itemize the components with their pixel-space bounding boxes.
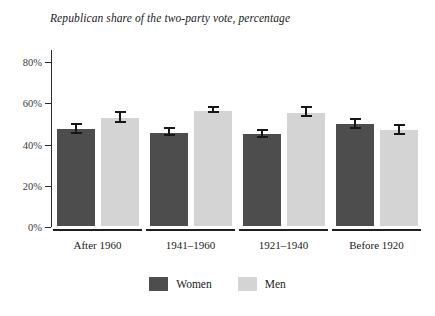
x-axis-category-label: 1921–1940 (237, 239, 330, 251)
y-axis-label: 60% (0, 98, 42, 109)
error-bar-cap-top (350, 118, 361, 120)
bar-group (51, 52, 144, 227)
bar-chart: Republican share of the two-party vote, … (0, 0, 435, 316)
error-bar-cap-bottom (115, 121, 126, 123)
y-axis-label: 40% (0, 139, 42, 150)
x-axis-group-rule (239, 229, 328, 231)
plot-area: After 19601941–19601921–1940Before 1920 (51, 52, 423, 227)
x-axis-category-label: After 1960 (51, 239, 144, 251)
x-axis-category-label: 1941–1960 (144, 239, 237, 251)
x-axis-group-foot: 1941–1960 (144, 229, 237, 251)
y-axis-label: 80% (0, 57, 42, 68)
error-bar-cap-top (257, 129, 268, 131)
bar-men-1 (193, 110, 233, 227)
error-bar-cap-top (71, 123, 82, 125)
legend-item-men[interactable]: Men (238, 277, 286, 291)
bar-group-bars (144, 52, 237, 227)
bar-group-bars (330, 52, 423, 227)
bar-men-3 (379, 129, 419, 227)
error-bar-cap-top (394, 124, 405, 126)
chart-title: Republican share of the two-party vote, … (50, 12, 290, 24)
legend-item-women[interactable]: Women (149, 277, 211, 291)
bar-group-bars (51, 52, 144, 227)
error-bar-cap-bottom (257, 136, 268, 138)
bar-men-0 (100, 117, 140, 227)
y-axis-label: 20% (0, 180, 42, 191)
chart-legend: WomenMen (0, 277, 435, 291)
bar-women-1 (149, 132, 189, 227)
error-bar-cap-top (115, 111, 126, 113)
bar-group (144, 52, 237, 227)
error-bar-cap-bottom (164, 134, 175, 136)
bar-women-2 (242, 133, 282, 227)
women-swatch (149, 277, 168, 291)
x-axis-group-rule (53, 229, 142, 231)
x-axis-group-foot: Before 1920 (330, 229, 423, 251)
bar-group (330, 52, 423, 227)
bar-men-2 (286, 112, 326, 227)
y-axis-label: 0% (0, 222, 42, 233)
x-axis-category-label: Before 1920 (330, 239, 423, 251)
error-bar-cap-bottom (208, 111, 219, 113)
error-bar-cap-top (208, 106, 219, 108)
error-bar-cap-top (164, 127, 175, 129)
legend-label: Women (176, 278, 211, 290)
bar-women-3 (335, 123, 375, 227)
men-swatch (238, 277, 257, 291)
x-axis-group-foot: After 1960 (51, 229, 144, 251)
error-bar-cap-bottom (350, 127, 361, 129)
error-bar-cap-bottom (301, 115, 312, 117)
error-bar-cap-top (301, 106, 312, 108)
x-axis-group-rule (146, 229, 235, 231)
bar-group (237, 52, 330, 227)
bar-group-bars (237, 52, 330, 227)
error-bar-cap-bottom (71, 132, 82, 134)
y-axis-tick (45, 227, 51, 228)
bar-women-0 (56, 128, 96, 227)
error-bar-cap-bottom (394, 133, 405, 135)
x-axis-group-rule (332, 229, 421, 231)
x-axis-group-foot: 1921–1940 (237, 229, 330, 251)
legend-label: Men (265, 278, 286, 290)
